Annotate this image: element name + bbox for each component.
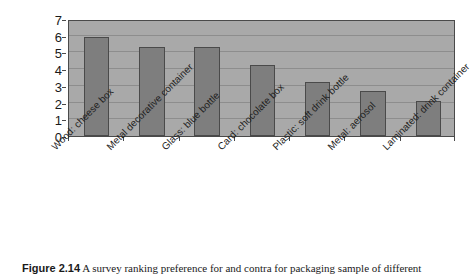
figure-caption: Figure 2.14 A survey ranking preference … (22, 262, 462, 276)
y-tick-mark (62, 87, 66, 88)
y-tick-label: 4 (55, 64, 62, 77)
plot-area (68, 20, 455, 137)
figure-caption-text: A survey ranking preference for and cont… (82, 262, 421, 274)
y-tick-mark (62, 20, 66, 21)
figure-caption-label: Figure 2.14 (22, 262, 80, 274)
x-axis-labels: Wood: cheese boxMetal decorative contain… (0, 137, 470, 247)
y-tick-label: 3 (55, 80, 62, 93)
y-tick-mark (62, 120, 66, 121)
y-tick-label: 6 (55, 30, 62, 43)
y-tick-mark (62, 37, 66, 38)
y-tick-mark (62, 104, 66, 105)
y-axis: 01234567 (46, 20, 66, 137)
y-tick-label: 1 (55, 114, 62, 127)
y-tick-mark (62, 70, 66, 71)
y-tick-mark (62, 53, 66, 54)
y-tick-label: 2 (55, 97, 62, 110)
y-tick-label: 5 (55, 47, 62, 60)
y-tick-label: 7 (55, 14, 62, 27)
bars-group (69, 21, 454, 136)
